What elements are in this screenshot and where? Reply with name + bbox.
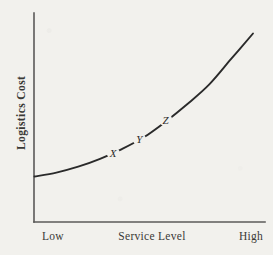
curve-label-x: X: [109, 147, 118, 159]
logistics-cost-figure: X Y Z Logistics Cost Low Service Level H…: [0, 0, 273, 255]
chart-canvas: X Y Z Logistics Cost Low Service Level H…: [0, 0, 273, 255]
x-axis-tick-high: High: [239, 230, 263, 243]
curve-label-z: Z: [163, 114, 170, 126]
y-axis-title: Logistics Cost: [15, 76, 28, 150]
x-axis-tick-low: Low: [42, 230, 64, 242]
curve-annotations: X Y Z: [107, 113, 172, 159]
x-axis-title: Service Level: [118, 230, 185, 242]
logistics-cost-curve: [35, 34, 254, 177]
